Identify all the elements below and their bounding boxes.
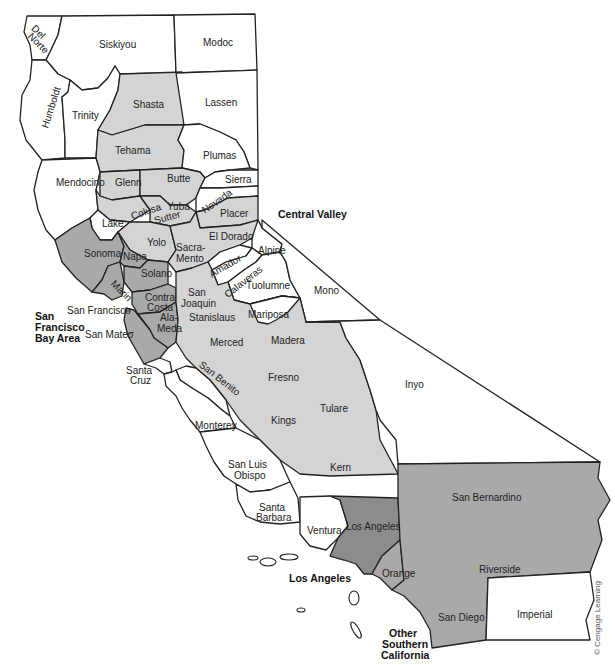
label-san-mateo: San Mateo	[85, 329, 134, 340]
label-kings: Kings	[271, 415, 296, 426]
label-santa-barbara-2: Barbara	[256, 512, 292, 523]
credit-text: © Cengage Learning	[593, 581, 602, 655]
label-stanislaus: Stanislaus	[189, 312, 235, 323]
label-trinity: Trinity	[72, 110, 99, 121]
label-san-bernardino: San Bernardino	[452, 492, 522, 503]
region-other-socal-3: California	[381, 649, 430, 661]
label-tulare: Tulare	[320, 403, 348, 414]
label-sierra: Sierra	[225, 174, 252, 185]
label-glenn: Glenn	[115, 177, 142, 188]
label-el-dorado: El Dorado	[209, 231, 254, 242]
island-2	[260, 558, 276, 566]
label-alpine: Alpine	[258, 245, 286, 256]
label-santa-cruz-2: Cruz	[130, 375, 151, 386]
label-alameda-2: Meda	[157, 323, 182, 334]
label-tuolumne: Tuolumne	[246, 280, 291, 291]
label-lake: Lake	[102, 218, 124, 229]
label-san-diego: San Diego	[438, 612, 485, 623]
label-monterey: Monterey	[195, 420, 237, 431]
label-imperial: Imperial	[517, 609, 553, 620]
island-5	[297, 608, 305, 612]
region-sf-bay-area-3: Bay Area	[35, 332, 80, 344]
label-modoc: Modoc	[203, 37, 233, 48]
label-los-angeles: Los Angeles	[346, 521, 401, 532]
label-san-luis-obispo-2: Obispo	[234, 470, 266, 481]
label-placer: Placer	[220, 208, 249, 219]
label-shasta: Shasta	[133, 99, 165, 110]
label-alameda: Ala-	[160, 312, 178, 323]
label-lassen: Lassen	[205, 97, 237, 108]
label-kern: Kern	[330, 462, 351, 473]
label-san-luis-obispo: San Luis	[228, 459, 267, 470]
label-mariposa: Mariposa	[248, 309, 290, 320]
region-central-valley: Central Valley	[278, 208, 347, 220]
region-los-angeles: Los Angeles	[289, 572, 351, 584]
label-fresno: Fresno	[268, 372, 300, 383]
label-san-francisco: San Francisco	[67, 305, 131, 316]
label-san-joaquin: San	[188, 287, 206, 298]
label-butte: Butte	[167, 173, 191, 184]
label-plumas: Plumas	[203, 150, 236, 161]
label-mono: Mono	[314, 285, 339, 296]
label-sacramento-2: Mento	[176, 253, 204, 264]
island-1	[248, 556, 258, 560]
label-san-joaquin-2: Joaquin	[181, 298, 216, 309]
label-mendocino: Mendocino	[56, 177, 105, 188]
label-tehama: Tehama	[115, 145, 151, 156]
county-imperial	[486, 572, 594, 640]
label-sacramento: Sacra-	[176, 242, 205, 253]
label-ventura: Ventura	[307, 525, 342, 536]
california-county-map: Del Norte Siskiyou Modoc Humboldt Trinit…	[0, 0, 615, 669]
island-4	[349, 591, 359, 605]
island-6	[349, 621, 363, 640]
label-madera: Madera	[271, 335, 305, 346]
label-sonoma: Sonoma	[84, 248, 122, 259]
label-merced: Merced	[210, 337, 243, 348]
label-siskiyou: Siskiyou	[99, 39, 136, 50]
label-solano: Solano	[141, 268, 173, 279]
island-3	[280, 554, 298, 560]
label-yolo: Yolo	[147, 237, 167, 248]
label-orange: Orange	[382, 568, 416, 579]
label-inyo: Inyo	[405, 379, 424, 390]
label-riverside: Riverside	[479, 564, 521, 575]
label-napa: Napa	[123, 251, 147, 262]
